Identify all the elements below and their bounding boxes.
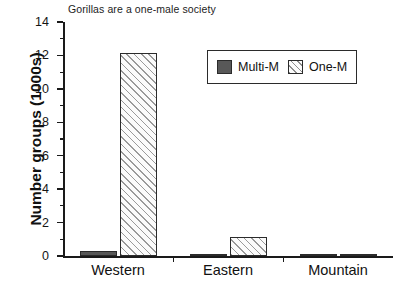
legend-swatch-multi-m-icon (217, 60, 232, 74)
y-tick-major (57, 255, 63, 256)
y-axis-line (63, 22, 65, 256)
y-tick-label: 2 (42, 216, 49, 230)
bar-eastern-multi-m (190, 254, 227, 256)
y-tick-major (57, 21, 63, 22)
y-tick-label: 0 (42, 249, 49, 263)
legend-swatch-one-m-icon (288, 60, 303, 74)
y-tick-minor (60, 72, 64, 73)
y-tick-major (57, 122, 63, 123)
bar-eastern-one-m (230, 237, 267, 256)
x-axis-line (63, 256, 393, 258)
y-tick-minor (60, 205, 64, 206)
x-tick (173, 256, 174, 262)
y-tick-major (57, 155, 63, 156)
y-tick-minor (60, 172, 64, 173)
chart-title: Gorillas are a one-male society (68, 3, 216, 15)
x-tick-label: Eastern (203, 262, 253, 278)
y-tick-major (57, 222, 63, 223)
legend-entry-multi-m: Multi-M (217, 60, 279, 74)
y-tick-minor (60, 105, 64, 106)
bar-western-one-m (120, 53, 157, 256)
legend-label-multi-m: Multi-M (238, 60, 279, 74)
chart-figure: Gorillas are a one-male society Number g… (0, 0, 403, 282)
y-tick-label: 12 (35, 48, 49, 62)
y-tick-label: 14 (35, 15, 49, 29)
x-tick (283, 256, 284, 262)
y-tick-minor (60, 38, 64, 39)
y-tick-major (57, 88, 63, 89)
legend-entry-one-m: One-M (288, 60, 347, 74)
y-tick-label: 4 (42, 182, 49, 196)
bar-mountain-one-m (340, 254, 377, 256)
y-tick-label: 10 (35, 82, 49, 96)
x-tick-label: Mountain (308, 262, 368, 278)
bar-mountain-multi-m (300, 254, 337, 256)
chart-legend: Multi-M One-M (207, 50, 357, 84)
y-tick-major (57, 55, 63, 56)
y-tick-minor (60, 138, 64, 139)
y-tick-label: 6 (42, 149, 49, 163)
x-tick-label: Western (91, 262, 145, 278)
legend-label-one-m: One-M (309, 60, 347, 74)
y-tick-label: 8 (42, 115, 49, 129)
y-tick-major (57, 188, 63, 189)
bar-western-multi-m (80, 251, 117, 256)
y-tick-minor (60, 239, 64, 240)
